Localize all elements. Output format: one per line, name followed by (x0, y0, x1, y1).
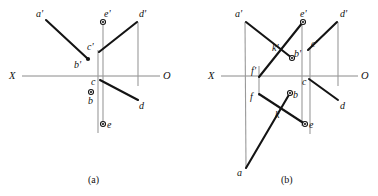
figure-page: XOa'b'c'd'e'bcdeXOa'k'b'c'e'd'f'fcbkeda(… (0, 0, 378, 196)
panel-b-axis-label-x: X (208, 71, 215, 82)
point-e-prime-marker-core (102, 21, 104, 23)
point-b-marker-core (90, 91, 92, 93)
panel-b-point-a-prime-label: a' (235, 9, 242, 19)
point-b-marker-core (289, 92, 291, 94)
edge-c-d (309, 79, 338, 100)
panel-b-point-d-prime-label: d' (340, 9, 347, 19)
point-b-prime-marker (86, 57, 90, 61)
panel-a-point-e-prime-label: e' (104, 9, 111, 19)
panel-a-point-d-prime-label: d' (139, 9, 146, 19)
panel-a-point-c-label: c (91, 77, 96, 87)
panel-b-point-e-prime-label: e' (300, 9, 307, 19)
geometry-figure (0, 0, 378, 196)
panel-caption-a: (a) (88, 175, 99, 185)
panel-a-axis-label-o: O (163, 71, 171, 82)
point-e-marker-core (304, 123, 306, 125)
panel-a-axis-label-x: X (9, 71, 16, 82)
panel-b-point-a-label: a (237, 168, 242, 178)
edge-a-b (246, 93, 290, 168)
panel-a-point-d-label: d (139, 101, 144, 111)
panel-b-point-c-prime-label: c' (311, 39, 318, 49)
point-b-prime-marker-core (291, 57, 293, 59)
edge-a-prime-b-prime (246, 22, 292, 58)
edge-c-prime-d-prime (99, 22, 137, 52)
panel-b-point-c-label: c (302, 77, 307, 87)
panel-b-point-b-label: b (293, 90, 298, 100)
panel-b-point-d-label: d (340, 101, 345, 111)
panel-caption-b: (b) (281, 175, 293, 185)
panel-b-point-k-prime-label: k' (272, 43, 279, 53)
panel-b-point-k-label: k (275, 110, 280, 120)
panel-a-point-c-prime-label: c' (87, 42, 94, 52)
edge-a-prime-b-prime (46, 20, 88, 59)
panel-b-axis-label-o: O (361, 71, 369, 82)
panel-a-point-e-label: e (107, 120, 112, 130)
panel-b (221, 20, 358, 169)
panel-b-point-b-prime-label: b' (294, 49, 301, 59)
panel-b-point-f-prime-label: f' (251, 66, 256, 76)
panel-b-point-e-label: e (309, 120, 314, 130)
edge-c-d (100, 80, 138, 100)
projector-a-line (245, 22, 246, 168)
panel-b-point-f-label: f (250, 92, 253, 102)
point-e-marker-core (102, 123, 104, 125)
point-e-prime-marker-core (302, 21, 304, 23)
panel-a-point-b-label: b (88, 96, 93, 106)
panel-a-point-a-prime-label: a' (36, 9, 43, 19)
panel-a-point-b-prime-label: b' (74, 60, 81, 70)
